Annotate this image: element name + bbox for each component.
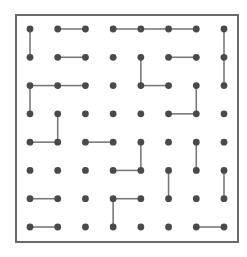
dot-grid-board xyxy=(0,0,247,257)
grid-dot xyxy=(193,26,200,33)
grid-dot xyxy=(110,224,117,231)
grid-dot xyxy=(54,54,61,61)
grid-dot xyxy=(165,110,172,117)
grid-dot xyxy=(82,224,89,231)
grid-dot xyxy=(221,82,228,89)
grid-dot xyxy=(137,195,144,202)
grid-dot xyxy=(110,195,117,202)
grid-dot xyxy=(54,110,61,117)
grid-dot xyxy=(193,195,200,202)
grid-dot xyxy=(193,54,200,61)
grid-dot xyxy=(137,139,144,146)
grid-dot xyxy=(110,167,117,174)
grid-dot xyxy=(193,110,200,117)
grid-dot xyxy=(27,195,34,202)
grid-dot xyxy=(165,224,172,231)
grid-dot xyxy=(165,82,172,89)
grid-dot xyxy=(137,54,144,61)
grid-dot xyxy=(165,167,172,174)
grid-dot xyxy=(82,26,89,33)
grid-dot xyxy=(165,54,172,61)
grid-dot xyxy=(110,82,117,89)
grid-dot xyxy=(54,167,61,174)
grid-dot xyxy=(54,224,61,231)
grid-dot xyxy=(27,167,34,174)
grid-dot xyxy=(110,139,117,146)
grid-dot xyxy=(82,139,89,146)
dots-layer xyxy=(27,26,228,231)
grid-dot xyxy=(193,224,200,231)
grid-dot xyxy=(82,54,89,61)
grid-dot xyxy=(137,110,144,117)
grid-dot xyxy=(221,110,228,117)
grid-dot xyxy=(110,26,117,33)
grid-dot xyxy=(82,110,89,117)
grid-dot xyxy=(137,82,144,89)
grid-dot xyxy=(193,139,200,146)
grid-dot xyxy=(165,195,172,202)
grid-dot xyxy=(221,26,228,33)
grid-dot xyxy=(82,195,89,202)
grid-dot xyxy=(137,26,144,33)
grid-dot xyxy=(27,26,34,33)
grid-dot xyxy=(54,82,61,89)
board-frame xyxy=(16,15,238,242)
grid-dot xyxy=(165,26,172,33)
grid-dot xyxy=(221,54,228,61)
grid-dot xyxy=(27,224,34,231)
grid-dot xyxy=(110,54,117,61)
grid-dot xyxy=(54,26,61,33)
grid-dot xyxy=(193,82,200,89)
grid-dot xyxy=(221,195,228,202)
grid-dot xyxy=(221,167,228,174)
grid-dot xyxy=(27,139,34,146)
grid-dot xyxy=(27,110,34,117)
grid-dot xyxy=(110,110,117,117)
grid-dot xyxy=(137,167,144,174)
grid-dot xyxy=(27,54,34,61)
grid-dot xyxy=(27,82,34,89)
grid-dot xyxy=(165,139,172,146)
grid-dot xyxy=(193,167,200,174)
grid-dot xyxy=(137,224,144,231)
grid-dot xyxy=(82,82,89,89)
grid-dot xyxy=(221,224,228,231)
grid-dot xyxy=(82,167,89,174)
grid-dot xyxy=(221,139,228,146)
grid-dot xyxy=(54,195,61,202)
grid-dot xyxy=(54,139,61,146)
